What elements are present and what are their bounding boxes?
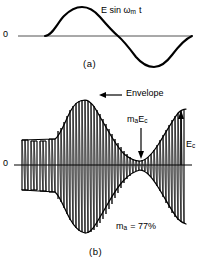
panel-b-zero-label: 0 <box>3 159 8 168</box>
modulating-signal-label: E sin ωmt <box>101 6 141 16</box>
ma-ec-main: m <box>127 114 135 124</box>
panel-a-group <box>18 7 192 67</box>
modulating-signal-main: E sin ω <box>101 5 131 15</box>
ma-ec-leader-arrow <box>138 128 144 159</box>
ma-ec-label: maEc <box>127 115 147 125</box>
ma-ec-tail: Ec <box>138 114 147 124</box>
modulation-index-sub: a <box>124 224 128 231</box>
ec-label: Ec <box>186 140 195 150</box>
modulation-index-label: ma= 77% <box>116 222 156 232</box>
panel-b-group <box>14 92 192 233</box>
panel-a-caption: (a) <box>83 59 96 69</box>
figure-container: 0 E sin ωmt (a) 0 Envelope maEc Ec ma= 7… <box>0 0 202 267</box>
modulation-index-main: m <box>116 221 124 231</box>
panel-a-zero-label: 0 <box>3 30 8 39</box>
envelope-leader-arrow <box>99 92 122 98</box>
panel-b-caption: (b) <box>89 247 102 257</box>
modulating-signal-sub: m <box>131 8 136 15</box>
am-modulation-figure-svg <box>0 0 202 267</box>
envelope-label: Envelope <box>126 89 164 98</box>
ec-sub: c <box>192 142 195 149</box>
modulation-index-tail: = 77% <box>130 221 156 231</box>
lower-envelope-curve <box>22 170 186 233</box>
modulating-sine-wave <box>45 7 192 67</box>
modulating-signal-tail: t <box>139 5 142 15</box>
